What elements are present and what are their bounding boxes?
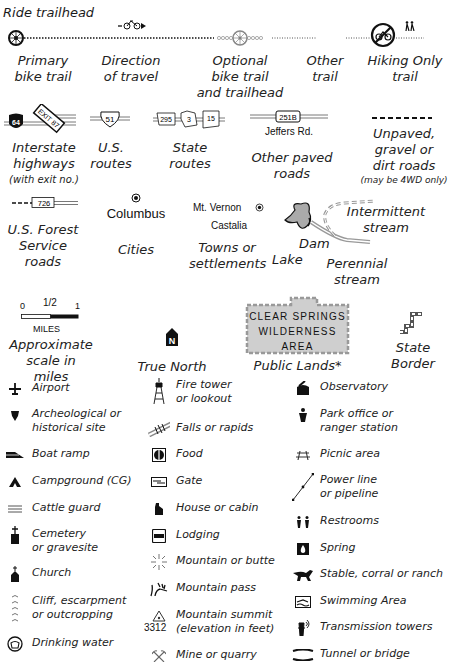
other-paved-road-shield-icon: 251B bbox=[250, 110, 328, 124]
airport-icon bbox=[4, 381, 26, 397]
legend-label: Power lineor pipeline bbox=[320, 473, 378, 501]
legend-item-summit: Mountain summit(elevation in feet) bbox=[148, 608, 274, 636]
scale-unit: MILES bbox=[33, 324, 60, 334]
label-line: Cliff, escarpment bbox=[32, 594, 126, 608]
legend-item-cliff: Cliff, escarpmentor outcropping bbox=[4, 594, 126, 624]
legend-label: House or cabin bbox=[176, 501, 259, 515]
state-routes-caption: State routes bbox=[165, 140, 215, 172]
label-line: Park office or bbox=[320, 407, 398, 421]
lodging-icon bbox=[148, 528, 170, 544]
legend-item-food: Food bbox=[148, 447, 203, 463]
label-line: Archeological or bbox=[32, 407, 121, 421]
caption-line: bike trail bbox=[195, 69, 285, 85]
label-line: ranger station bbox=[320, 421, 398, 435]
caption-line: Border bbox=[385, 356, 441, 372]
campground-tent-icon bbox=[4, 474, 26, 490]
state-border-icon bbox=[400, 312, 424, 334]
legend-item-spring: Spring bbox=[292, 541, 356, 557]
label-line: or lookout bbox=[176, 392, 232, 406]
svg-text:3: 3 bbox=[187, 116, 191, 123]
caption-note: (may be 4WD only) bbox=[360, 174, 448, 186]
legend-label: Mine or quarry bbox=[176, 648, 257, 662]
legend-item-boat-ramp: Boat ramp bbox=[4, 447, 90, 463]
svg-text:251B: 251B bbox=[279, 113, 297, 122]
legend-label: Airport bbox=[32, 381, 70, 395]
caption-line: Other bbox=[300, 53, 350, 69]
mountain-butte-icon bbox=[148, 554, 170, 570]
dam-label: Dam bbox=[299, 236, 330, 251]
swimming-icon bbox=[292, 594, 314, 610]
legend-label: Church bbox=[32, 566, 71, 580]
caption-line: Approximate bbox=[8, 337, 94, 353]
intermittent-caption: Intermittent stream bbox=[336, 204, 436, 236]
caption-line: stream bbox=[322, 272, 392, 288]
unpaved-caption: Unpaved, gravel or dirt roads (may be 4W… bbox=[360, 126, 448, 186]
boat-ramp-icon bbox=[4, 447, 26, 463]
box-line: WILDERNESS bbox=[245, 324, 350, 339]
legend-label: Drinking water bbox=[32, 636, 113, 650]
svg-text:15: 15 bbox=[207, 115, 215, 122]
caption-line: U.S. Forest bbox=[4, 222, 82, 238]
legend-label: Observatory bbox=[320, 380, 388, 394]
legend-item-mountain-pass: Mountain pass bbox=[148, 581, 256, 597]
summit-elevation: 3312 bbox=[144, 622, 166, 633]
food-icon bbox=[148, 447, 170, 463]
transmission-tower-icon bbox=[292, 620, 314, 636]
label-line: or outcropping bbox=[32, 608, 126, 622]
public-lands-box-text: CLEAR SPRINGS WILDERNESS AREA bbox=[245, 309, 350, 354]
caption-line: Primary bbox=[8, 53, 78, 69]
legend-item-falls: Falls or rapids bbox=[148, 421, 253, 437]
legend-label: Campground (CG) bbox=[32, 474, 132, 488]
caption-line: trail bbox=[365, 69, 445, 85]
forest-road-shield-icon: 726 bbox=[12, 197, 78, 209]
legend-label: Mountain summit(elevation in feet) bbox=[176, 608, 274, 636]
town-name-2: Castalia bbox=[211, 220, 247, 231]
svg-text:295: 295 bbox=[160, 116, 172, 123]
town-dot-icon bbox=[255, 203, 264, 212]
lake-label: Lake bbox=[272, 252, 303, 267]
legend-label: Park office orranger station bbox=[320, 407, 398, 435]
legend-label: Boat ramp bbox=[32, 447, 90, 461]
spring-icon bbox=[292, 541, 314, 557]
unpaved-road-line-icon bbox=[372, 116, 432, 120]
legend-label: Gate bbox=[176, 474, 202, 488]
legend-item-transmission: Transmission towers bbox=[292, 620, 432, 636]
public-lands-caption: Public Lands* bbox=[250, 358, 345, 374]
legend-item-swimming: Swimming Area bbox=[292, 594, 407, 610]
legend-item-mountain: Mountain or butte bbox=[148, 554, 275, 570]
legend-label: Tunnel or bridge bbox=[320, 647, 410, 661]
caption-line: Intermittent bbox=[336, 204, 436, 220]
us-route-shield-icon: 51 bbox=[90, 110, 130, 128]
caption-line: gravel or bbox=[360, 142, 448, 158]
gate-icon bbox=[148, 474, 170, 490]
interstate-shield-icon: 64 EXIT 87 bbox=[4, 104, 76, 136]
mine-quarry-icon bbox=[148, 648, 170, 664]
restrooms-icon bbox=[292, 514, 314, 530]
legend-label: Spring bbox=[320, 541, 356, 555]
picnic-table-icon bbox=[292, 447, 314, 463]
caption-line: Perennial bbox=[322, 256, 392, 272]
legend-label: Archeological orhistorical site bbox=[32, 407, 121, 435]
caption-line: State bbox=[385, 340, 441, 356]
legend-label: Transmission towers bbox=[320, 620, 432, 634]
legend-label: Restrooms bbox=[320, 514, 379, 528]
no-bike-icon bbox=[370, 22, 396, 48]
legend-item-park-office: Park office orranger station bbox=[292, 407, 398, 435]
other-trail-caption: Other trail bbox=[300, 53, 350, 85]
legend-item-power-line: Power lineor pipeline bbox=[292, 473, 378, 501]
svg-text:51: 51 bbox=[106, 115, 115, 124]
cities-caption: Cities bbox=[104, 242, 168, 258]
legend-item-church: Church bbox=[4, 566, 71, 582]
label-line: or gravesite bbox=[32, 541, 98, 555]
legend-item-cattle-guard: Cattle guard bbox=[4, 501, 101, 517]
legend-item-drinking-water: Drinking water bbox=[4, 636, 113, 652]
drinking-water-icon bbox=[4, 636, 26, 652]
svg-text:726: 726 bbox=[38, 199, 51, 208]
legend-label: Cattle guard bbox=[32, 501, 101, 515]
caption-line: Hiking Only bbox=[365, 53, 445, 69]
caption-line: Service roads bbox=[4, 238, 82, 270]
caption-line: settlements bbox=[189, 256, 265, 272]
caption-line: of travel bbox=[95, 69, 167, 85]
legend-label: Cemeteryor gravesite bbox=[32, 527, 98, 555]
observatory-icon bbox=[292, 380, 314, 396]
